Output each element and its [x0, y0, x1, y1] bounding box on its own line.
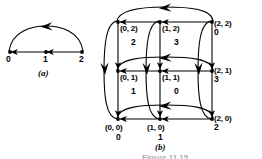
panel-b-node-coord-01: (0, 1): [120, 73, 137, 82]
panel-b-node-coord-02: (0, 2): [120, 24, 137, 33]
panel-b-node-10: [158, 117, 162, 121]
panel-b-node-value-22: 0: [214, 28, 219, 37]
panel-b-node-coord-00: (0, 0): [105, 123, 122, 132]
panel-b-node-value-21: 3: [214, 75, 219, 84]
panel-a-caption: (a): [38, 68, 49, 78]
panel-b-node-value-20: 2: [214, 123, 219, 132]
panel-b-node-value-11: 0: [174, 87, 179, 96]
panel-b-arc-20-00-arrowhead: [159, 102, 172, 110]
panel-b-node-value-10: 1: [158, 133, 163, 142]
panel-b-graph: [100, 4, 214, 121]
panel-b-node-value-02: 2: [131, 38, 136, 47]
panel-b-node-coord-11: (1, 1): [162, 73, 179, 82]
figure-root: 0 1 2 (a) (0, 2) 2 (1, 2) 3 (2, 2) 0 (0,…: [0, 0, 262, 159]
panel-a-node-label-1: 1: [43, 55, 48, 64]
panel-a-node-label-0: 0: [6, 55, 11, 64]
panel-b-node-coord-10: (1, 0): [147, 123, 164, 132]
panel-a-edge-2-0-arc: [9, 26, 83, 51]
panel-a-graph: [8, 22, 84, 54]
panel-b-node-value-01: 1: [131, 87, 136, 96]
panel-b-node-value-00: 0: [116, 133, 121, 142]
panel-a-node-label-2: 2: [79, 55, 84, 64]
panel-b-arc-22-02-arrowhead: [159, 4, 172, 12]
figure-caption: Figure 11.15: [142, 153, 188, 159]
panel-b-node-00: [116, 117, 120, 121]
panel-b-node-coord-12: (1, 2): [162, 24, 179, 33]
panel-b-caption: (b): [155, 142, 166, 152]
panel-b-node-value-12: 3: [174, 38, 179, 47]
panel-b-arc-21-01-arrowhead: [159, 54, 172, 62]
